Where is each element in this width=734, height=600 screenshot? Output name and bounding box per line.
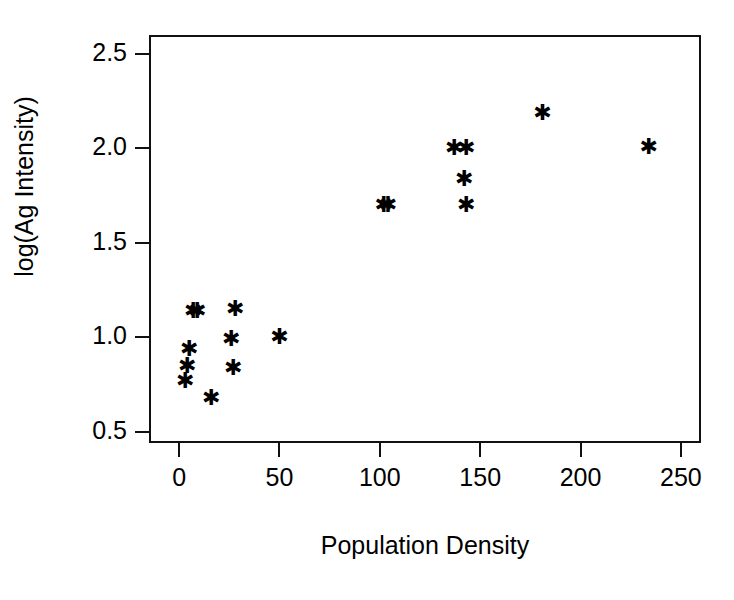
data-point: ✱	[379, 194, 397, 216]
x-tick-mark	[479, 443, 481, 457]
data-point: ✱	[224, 357, 242, 379]
x-tick-label: 0	[139, 463, 219, 492]
y-tick-label: 2.0	[49, 132, 127, 161]
y-tick-label: 1.0	[49, 321, 127, 350]
x-tick-label: 250	[641, 463, 721, 492]
data-point: ✱	[457, 137, 475, 159]
x-tick-mark	[278, 443, 280, 457]
y-tick-mark: 1.5	[135, 242, 149, 244]
y-tick-mark: 2.5	[135, 53, 149, 55]
x-tick-mark	[580, 443, 582, 457]
x-tick-label: 150	[440, 463, 520, 492]
x-tick-label: 100	[340, 463, 420, 492]
data-point: ✱	[455, 168, 473, 190]
data-point: ✱	[188, 300, 206, 322]
y-tick-mark: 2.0	[135, 147, 149, 149]
x-axis-label: Population Density	[149, 531, 701, 560]
data-point: ✱	[533, 102, 551, 124]
plot-area: ✱✱✱✱✱✱✱✱✱✱✱✱✱✱✱✱✱✱	[149, 35, 701, 443]
y-tick-mark: 0.5	[135, 431, 149, 433]
data-point: ✱	[202, 387, 220, 409]
y-tick-label: 0.5	[49, 416, 127, 445]
data-point: ✱	[222, 328, 240, 350]
data-point: ✱	[457, 194, 475, 216]
x-tick-label: 50	[239, 463, 319, 492]
data-point: ✱	[270, 326, 288, 348]
y-tick-label: 1.5	[49, 227, 127, 256]
x-tick-mark	[680, 443, 682, 457]
data-point: ✱	[226, 298, 244, 320]
y-tick-mark: 1.0	[135, 336, 149, 338]
x-tick-label: 200	[541, 463, 621, 492]
x-tick-mark	[178, 443, 180, 457]
x-tick-mark	[379, 443, 381, 457]
y-axis-label: log(Ag Intensity)	[10, 0, 39, 377]
y-tick-label: 2.5	[49, 38, 127, 67]
scatter-plot-figure: log(Ag Intensity) 0.51.01.52.02.5 ✱✱✱✱✱✱…	[0, 0, 734, 600]
data-point: ✱	[176, 370, 194, 392]
data-point: ✱	[640, 136, 658, 158]
